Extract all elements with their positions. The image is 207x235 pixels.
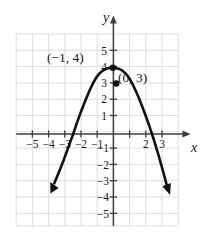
y-tick-label: 2 (101, 93, 107, 105)
parabola-figure: −5 −4 −3 −2 −1 2 3 5 4 3 2 1 −1 −2 −3 −4… (0, 0, 207, 235)
vertex-label: (−1, 4) (47, 50, 84, 65)
x-axis-arrowhead (183, 131, 191, 138)
intercept-label: (0, 3) (118, 70, 147, 85)
x-tick-labels: −5 −4 −3 −2 −1 2 3 (26, 138, 165, 150)
curve-right-arrowhead (162, 183, 171, 195)
x-tick-label: −2 (75, 138, 87, 150)
x-tick-label: 3 (159, 138, 165, 150)
x-tick-label: −5 (26, 138, 38, 150)
vertex-point (110, 65, 117, 72)
x-axis-label: x (190, 140, 198, 155)
y-tick-label: −3 (97, 175, 109, 187)
y-tick-label: −2 (97, 159, 109, 171)
x-tick-label: 2 (143, 138, 149, 150)
parabola-curve (54, 68, 166, 185)
y-axis-label: y (101, 10, 110, 25)
graph-canvas: −5 −4 −3 −2 −1 2 3 5 4 3 2 1 −1 −2 −3 −4… (0, 0, 207, 235)
y-tick-label: 5 (101, 45, 107, 57)
y-tick-label: −5 (97, 208, 109, 220)
y-tick-label: −1 (97, 142, 109, 154)
y-tick-label: −4 (97, 191, 109, 203)
y-axis-arrowhead (110, 16, 117, 24)
y-tick-label: 1 (101, 110, 107, 122)
y-tick-label: 3 (101, 77, 107, 89)
x-tick-label: −4 (42, 138, 54, 150)
